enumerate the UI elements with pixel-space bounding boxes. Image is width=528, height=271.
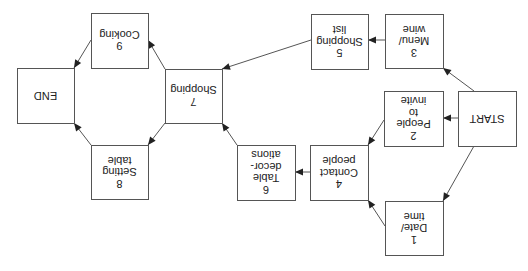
node-label-line: 1 (411, 234, 417, 246)
edge-start-to-n2 (443, 115, 458, 122)
node-n7: 7Shopping (166, 70, 223, 124)
edge-start-to-n1 (443, 146, 474, 201)
arrowhead-icon (368, 200, 375, 209)
arrowhead-icon (74, 123, 82, 131)
connector-line (443, 146, 474, 201)
edge-n3-to-n5 (368, 37, 385, 44)
edge-n4-to-n6 (295, 169, 310, 176)
arrowhead-icon (368, 136, 375, 145)
node-label-line: 7 (190, 96, 196, 108)
node-label-line: 8 (116, 178, 122, 190)
node-label-line: 5 (336, 47, 342, 59)
node-start: START (459, 92, 517, 147)
arrowhead-icon (443, 115, 451, 122)
node-label: START (469, 113, 504, 125)
node-label-line: decor- (250, 161, 282, 173)
node-label-line: Cooking (99, 29, 139, 41)
node-n3: 3Menu/wine (386, 15, 444, 69)
node-n8: 8Settingtable (92, 146, 149, 200)
node-label-line: Setting (102, 166, 136, 178)
node-label-line: Shopping (170, 84, 217, 96)
edge-start-to-n3 (443, 68, 474, 91)
node-n1: 1Date/time (386, 202, 444, 256)
edge-n1-to-n4 (368, 200, 385, 226)
arrowhead-icon (295, 169, 303, 176)
arrowhead-icon (443, 192, 450, 201)
node-label-line: 2 (410, 130, 416, 142)
node-label-line: 9 (116, 40, 122, 52)
node-end: END (18, 69, 75, 124)
arrowhead-icon (74, 59, 81, 68)
edge-n2-to-n4 (368, 120, 384, 145)
node-label-line: time (404, 211, 425, 223)
node-label-line: Date/ (400, 222, 427, 234)
edge-n6-to-n7 (222, 123, 237, 145)
arrowhead-icon (222, 123, 229, 132)
node-n5: 5Shoppinglist (312, 15, 369, 70)
node-label-line: START (469, 113, 504, 125)
node-label-line: to (409, 107, 418, 119)
edge-n9-to-end (74, 40, 91, 68)
node-label-line: Contact (320, 167, 358, 179)
node-label-line: 6 (263, 184, 269, 196)
node-label-line: table (108, 155, 132, 167)
arrowhead-icon (222, 63, 231, 70)
edge-n5-to-n7 (222, 40, 311, 70)
nodes-layer: START1Date/time2Peopletoinvite3Menu/wine… (18, 14, 517, 256)
node-label-line: people (322, 155, 355, 167)
node-label-line: Menu/ (398, 35, 430, 47)
arrowhead-icon (148, 137, 156, 145)
node-label: END (34, 90, 57, 102)
node-label-line: Shopping (316, 36, 363, 48)
node-label-line: wine (403, 24, 427, 36)
edge-n7-to-n9 (148, 40, 165, 69)
arrowhead-icon (148, 40, 155, 49)
flowchart-diagram: START1Date/time2Peopletoinvite3Menu/wine… (0, 0, 528, 271)
node-label-line: Table (253, 172, 279, 184)
node-label-line: People (396, 118, 430, 130)
node-label-line: ations (251, 149, 281, 161)
node-label-line: 4 (336, 178, 342, 190)
edge-n8-to-end (74, 123, 91, 145)
node-n2: 2Peopletoinvite (385, 92, 444, 147)
node-label-line: 3 (411, 47, 417, 59)
arrowhead-icon (443, 68, 452, 76)
node-n4: 4Contactpeople (311, 146, 369, 201)
node-label-line: invite (401, 95, 427, 107)
arrowhead-icon (368, 37, 376, 44)
node-label-line: list (333, 24, 346, 36)
edge-n7-to-n8 (148, 123, 165, 145)
node-n6: 6Tabledecor-ations (238, 146, 296, 201)
node-n9: 9Cooking (92, 14, 149, 69)
connector-line (222, 40, 311, 69)
node-label-line: END (34, 90, 57, 102)
